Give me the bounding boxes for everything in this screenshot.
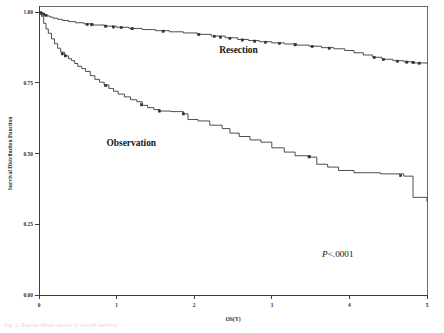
censor-mark-resection bbox=[418, 62, 420, 64]
x-tick-label: 4 bbox=[348, 302, 351, 308]
censor-mark-resection bbox=[412, 62, 414, 64]
censor-mark-resection bbox=[254, 40, 256, 42]
observation-label: Observation bbox=[107, 138, 157, 148]
censor-mark-resection bbox=[406, 61, 408, 63]
series-curves bbox=[39, 12, 427, 202]
censor-mark-resection bbox=[131, 28, 133, 30]
curve-observation bbox=[39, 12, 427, 202]
censor-mark-resection bbox=[120, 26, 122, 28]
censor-mark-observation bbox=[105, 84, 107, 86]
kaplan-meier-plot: 012345 0.000.250.500.751.00 OS(Y)Surviva… bbox=[0, 0, 444, 333]
censor-mark-observation bbox=[158, 110, 160, 112]
y-tick-label: 0.00 bbox=[24, 292, 34, 298]
censor-mark-resection bbox=[219, 36, 221, 38]
x-tick-label: 3 bbox=[270, 302, 273, 308]
censor-mark-observation bbox=[140, 104, 142, 106]
censor-mark-resection bbox=[43, 13, 45, 15]
censor-mark-resection bbox=[105, 25, 107, 27]
censor-mark-resection bbox=[162, 30, 164, 32]
y-tick-label: 0.25 bbox=[24, 221, 34, 227]
x-tick-label: 5 bbox=[426, 302, 429, 308]
censor-mark-resection bbox=[241, 39, 243, 41]
censor-mark-resection bbox=[229, 37, 231, 39]
resection-label: Resection bbox=[219, 45, 258, 55]
censor-mark-resection bbox=[86, 23, 88, 25]
censor-mark-resection bbox=[45, 14, 47, 16]
y-tick-label: 0.75 bbox=[24, 80, 34, 86]
figure-caption: Fig. 2. Kaplan-Meier curves of overall s… bbox=[4, 322, 174, 332]
pvalue-label: P<.0001 bbox=[321, 249, 354, 259]
x-axis-ticks: 012345 bbox=[38, 295, 429, 308]
censor-mark-resection bbox=[112, 26, 114, 28]
censor-mark-observation bbox=[182, 113, 184, 115]
curve-resection bbox=[39, 12, 427, 64]
censor-mark-resection bbox=[278, 42, 280, 44]
y-tick-label: 0.50 bbox=[24, 151, 34, 157]
censor-marks bbox=[40, 12, 420, 177]
censor-mark-resection bbox=[264, 41, 266, 43]
censor-mark-resection bbox=[311, 45, 313, 47]
censor-mark-resection bbox=[198, 34, 200, 36]
censor-mark-observation bbox=[400, 174, 402, 176]
censor-mark-observation bbox=[308, 156, 310, 158]
censor-mark-resection bbox=[382, 58, 384, 60]
y-axis-ticks: 0.000.250.500.751.00 bbox=[24, 9, 39, 298]
x-tick-label: 2 bbox=[193, 302, 196, 308]
censor-mark-resection bbox=[373, 56, 375, 58]
axis-and-annotation-labels: OS(Y)Survival Distribution FunctionResec… bbox=[7, 45, 354, 323]
x-tick-label: 0 bbox=[38, 302, 41, 308]
y-tick-label: 1.00 bbox=[24, 9, 34, 15]
censor-mark-observation bbox=[61, 53, 63, 55]
censor-mark-resection bbox=[294, 44, 296, 46]
censor-mark-resection bbox=[213, 35, 215, 37]
censor-mark-resection bbox=[396, 60, 398, 62]
x-tick-label: 1 bbox=[115, 302, 118, 308]
survival-curve-figure: 012345 0.000.250.500.751.00 OS(Y)Surviva… bbox=[0, 0, 444, 333]
x-axis-title: OS(Y) bbox=[225, 316, 240, 323]
censor-mark-resection bbox=[40, 12, 42, 14]
censor-mark-observation bbox=[64, 55, 66, 57]
censor-mark-resection bbox=[91, 24, 93, 26]
censor-mark-resection bbox=[328, 47, 330, 49]
y-axis-title: Survival Distribution Function bbox=[7, 116, 13, 191]
